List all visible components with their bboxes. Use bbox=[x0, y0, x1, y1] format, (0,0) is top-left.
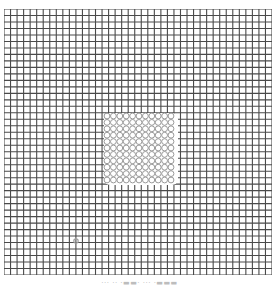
caption: ··· ·· ·▬▬· ··· ·▬▬▬ bbox=[0, 279, 279, 287]
distortion-region bbox=[104, 113, 178, 185]
grid-pattern bbox=[4, 9, 272, 275]
